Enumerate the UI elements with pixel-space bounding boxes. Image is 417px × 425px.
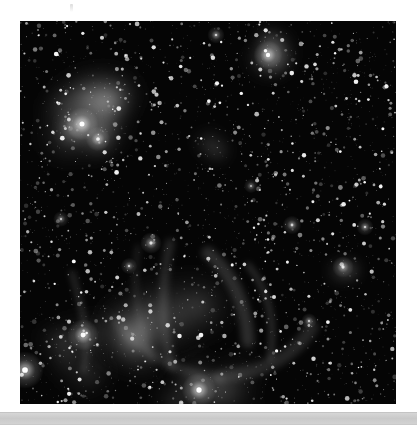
- bright-star: [207, 26, 224, 43]
- horizontal-scrollbar[interactable]: [0, 412, 417, 425]
- astronomical-image-plate[interactable]: [20, 21, 396, 404]
- bright-star: [301, 313, 317, 329]
- image-viewer-app: [0, 0, 417, 425]
- bright-star: [140, 232, 162, 254]
- bright-star: [332, 256, 354, 278]
- bright-star: [53, 211, 69, 227]
- bright-star: [67, 319, 99, 351]
- bright-star: [86, 127, 110, 151]
- bright-star: [356, 218, 373, 235]
- bright-star: [121, 258, 138, 275]
- bright-star: [254, 41, 283, 70]
- starfield-canvas: [20, 21, 396, 404]
- top-artifact-mark: [70, 4, 73, 12]
- bright-star: [244, 179, 258, 193]
- bright-star: [283, 216, 302, 235]
- scrollbar-thumb[interactable]: [0, 413, 417, 424]
